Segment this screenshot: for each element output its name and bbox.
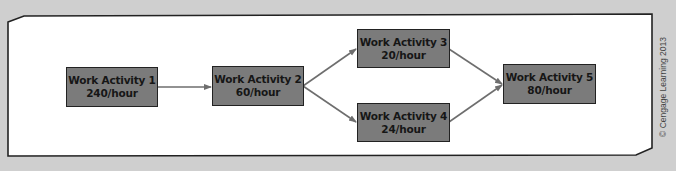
node-work-activity-5: Work Activity 5 80/hour xyxy=(503,64,596,104)
copyright-credit: © Cengage Learning 2013 xyxy=(658,37,668,137)
node-rate: 240/hour xyxy=(86,87,138,100)
node-title: Work Activity 1 xyxy=(68,74,155,87)
diagram-canvas: Work Activity 1 240/hour Work Activity 2… xyxy=(0,0,676,171)
node-work-activity-1: Work Activity 1 240/hour xyxy=(66,67,158,107)
node-work-activity-3: Work Activity 3 20/hour xyxy=(357,29,450,68)
node-rate: 80/hour xyxy=(527,84,571,97)
node-work-activity-2: Work Activity 2 60/hour xyxy=(212,66,304,106)
node-title: Work Activity 4 xyxy=(360,110,447,123)
node-title: Work Activity 3 xyxy=(360,36,447,49)
node-work-activity-4: Work Activity 4 24/hour xyxy=(357,103,450,142)
node-rate: 24/hour xyxy=(381,123,425,136)
node-rate: 60/hour xyxy=(236,86,280,99)
node-title: Work Activity 5 xyxy=(506,71,593,84)
node-title: Work Activity 2 xyxy=(214,73,301,86)
node-rate: 20/hour xyxy=(381,49,425,62)
